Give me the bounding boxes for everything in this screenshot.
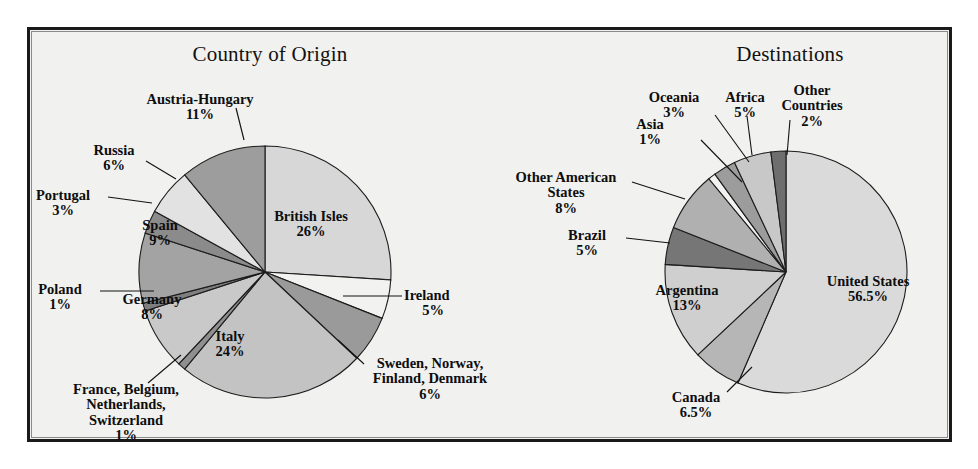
label-united-states-pct: 56.5% xyxy=(800,289,936,304)
label-france-benelux: France, Belgium, Netherlands, Switzerlan… xyxy=(30,382,222,443)
label-canada-text: Canada xyxy=(672,389,720,405)
label-nordics: Sweden, Norway, Finland, Denmark 6% xyxy=(355,356,505,402)
label-ireland-pct: 5% xyxy=(404,303,462,318)
label-portugal-pct: 3% xyxy=(20,203,106,218)
label-nordics-line2: Finland, Denmark xyxy=(373,370,487,386)
label-other-american-line2: States xyxy=(547,184,584,200)
leader-africa xyxy=(747,116,752,155)
label-other-countries-line2: Countries xyxy=(781,97,842,113)
label-portugal-text: Portugal xyxy=(36,187,90,203)
label-russia-text: Russia xyxy=(93,142,134,158)
label-nordics-pct: 6% xyxy=(355,387,505,402)
label-united-states: United States 56.5% xyxy=(800,274,936,305)
label-germany-text: Germany xyxy=(123,291,182,307)
label-other-american-pct: 8% xyxy=(500,201,632,216)
leader-portugal xyxy=(108,197,152,203)
label-austria-hungary: Austria-Hungary 11% xyxy=(100,92,300,123)
label-france-line3: Switzerland xyxy=(89,412,163,428)
label-france-line1: France, Belgium, xyxy=(73,381,179,397)
label-germany: Germany 8% xyxy=(106,292,198,323)
pie-destinations xyxy=(665,151,907,393)
label-poland-pct: 1% xyxy=(20,297,100,312)
leader-oceania xyxy=(715,115,749,162)
label-russia-pct: 6% xyxy=(68,158,160,173)
label-france-pct: 1% xyxy=(30,428,222,443)
label-british-isles: British Isles 26% xyxy=(248,209,374,240)
label-argentina: Argentina 13% xyxy=(634,283,740,314)
label-other-countries: Other Countries 2% xyxy=(768,83,856,129)
label-other-countries-pct: 2% xyxy=(768,114,856,129)
label-austria-hungary-text: Austria-Hungary xyxy=(146,91,253,107)
label-poland-text: Poland xyxy=(38,281,82,297)
label-ireland: Ireland 5% xyxy=(404,288,484,319)
label-argentina-text: Argentina xyxy=(656,282,719,298)
label-brazil-text: Brazil xyxy=(568,227,606,243)
label-nordics-line1: Sweden, Norway, xyxy=(377,355,484,371)
label-oceania-text: Oceania xyxy=(649,89,700,105)
leader-other-american xyxy=(632,182,685,199)
label-british-isles-text: British Isles xyxy=(274,208,348,224)
label-ireland-text: Ireland xyxy=(404,287,450,303)
label-africa-text: Africa xyxy=(725,89,764,105)
label-italy-text: Italy xyxy=(216,328,245,344)
label-portugal: Portugal 3% xyxy=(20,188,106,219)
label-austria-hungary-pct: 11% xyxy=(100,107,300,122)
label-germany-pct: 8% xyxy=(106,307,198,322)
label-argentina-pct: 13% xyxy=(634,298,740,313)
leader-brazil xyxy=(626,238,670,243)
label-asia-pct: 1% xyxy=(622,132,678,147)
label-spain: Spain 9% xyxy=(120,218,200,249)
label-other-american-line1: Other American xyxy=(516,169,617,185)
label-other-countries-line1: Other xyxy=(793,82,830,98)
label-other-american-states: Other American States 8% xyxy=(500,170,632,216)
label-russia: Russia 6% xyxy=(68,143,160,174)
label-poland: Poland 1% xyxy=(20,282,100,313)
label-brazil: Brazil 5% xyxy=(550,228,624,259)
label-united-states-text: United States xyxy=(827,273,910,289)
label-asia-text: Asia xyxy=(636,116,663,132)
label-canada-pct: 6.5% xyxy=(648,405,744,420)
figure-root: Country of Origin Destinations Austria-H… xyxy=(0,0,978,469)
pie-origin xyxy=(139,146,391,398)
label-brazil-pct: 5% xyxy=(550,243,624,258)
label-france-line2: Netherlands, xyxy=(86,396,165,412)
label-asia: Asia 1% xyxy=(622,117,678,148)
label-italy-pct: 24% xyxy=(195,344,265,359)
label-british-isles-pct: 26% xyxy=(248,224,374,239)
label-africa-pct: 5% xyxy=(714,105,776,120)
label-spain-pct: 9% xyxy=(120,233,200,248)
label-africa: Africa 5% xyxy=(714,90,776,121)
label-italy: Italy 24% xyxy=(195,329,265,360)
leader-france xyxy=(148,355,181,383)
label-spain-text: Spain xyxy=(142,217,177,233)
label-canada: Canada 6.5% xyxy=(648,390,744,421)
